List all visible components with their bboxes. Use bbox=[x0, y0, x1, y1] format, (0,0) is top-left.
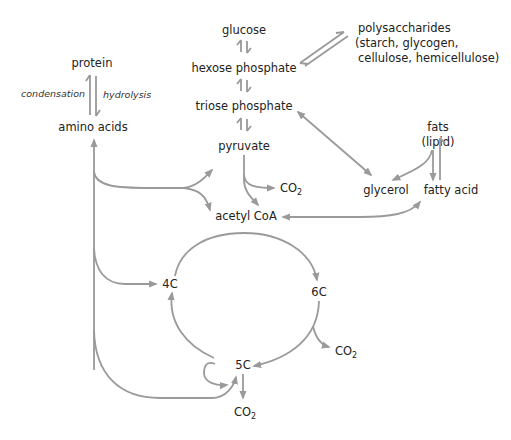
equilibrium-triose-pyruvate bbox=[237, 118, 251, 131]
equilibrium-hexose-polysaccharides bbox=[300, 32, 348, 66]
node-5c: 5C bbox=[235, 358, 250, 372]
arrow-amino-acids-acetyl-coa bbox=[184, 188, 210, 210]
equilibrium-hexose-triose bbox=[237, 79, 251, 92]
arrow-amino-acids-4c bbox=[94, 248, 156, 284]
node-glycerol: glycerol bbox=[363, 183, 408, 197]
arrow-5c-4c bbox=[171, 293, 214, 358]
metabolic-pathway-diagram: glucose hexose phosphate triose phosphat… bbox=[0, 0, 511, 440]
arrow-pyruvate-co2 bbox=[244, 175, 274, 188]
node-fats: fats bbox=[427, 120, 449, 134]
co2-5c: CO2 bbox=[234, 405, 256, 421]
arrow-triose-glycerol bbox=[298, 112, 371, 175]
arrow-fats-glycerol bbox=[393, 150, 432, 180]
arrow-5c-recycle bbox=[204, 363, 227, 385]
co2-6c: CO2 bbox=[335, 344, 357, 360]
node-fatty-acid: fatty acid bbox=[424, 183, 478, 197]
arrow-6c-5c bbox=[254, 301, 319, 366]
node-pyruvate: pyruvate bbox=[218, 139, 270, 153]
equilibrium-glucose-hexose bbox=[237, 40, 251, 53]
node-glucose: glucose bbox=[222, 23, 266, 37]
equilibrium-protein-amino-acids bbox=[86, 75, 100, 116]
node-4c: 4C bbox=[162, 277, 177, 291]
node-triose-phosphate: triose phosphate bbox=[195, 99, 292, 113]
node-polysaccharides-examples-1: (starch, glycogen, bbox=[355, 36, 458, 50]
node-amino-acids: amino acids bbox=[58, 120, 127, 134]
node-acetyl-coa: acetyl CoA bbox=[215, 209, 277, 223]
node-polysaccharides-examples-2: cellulose, hemicellulose) bbox=[358, 51, 499, 65]
arrow-6c-co2 bbox=[313, 326, 329, 347]
label-condensation: condensation bbox=[21, 88, 85, 99]
label-hydrolysis: hydrolysis bbox=[103, 89, 151, 100]
arrow-amino-acids-pyruvate bbox=[94, 170, 212, 188]
node-protein: protein bbox=[72, 56, 113, 70]
arrow-fatty-acid-acetyl-coa bbox=[283, 202, 420, 217]
node-polysaccharides: polysaccharides bbox=[358, 21, 451, 35]
node-6c: 6C bbox=[311, 285, 326, 299]
node-hexose-phosphate: hexose phosphate bbox=[191, 61, 296, 75]
node-fats-lipid: (lipid) bbox=[421, 135, 454, 149]
arrow-4c-6c bbox=[175, 233, 317, 280]
co2-pyruvate: CO2 bbox=[280, 181, 302, 197]
